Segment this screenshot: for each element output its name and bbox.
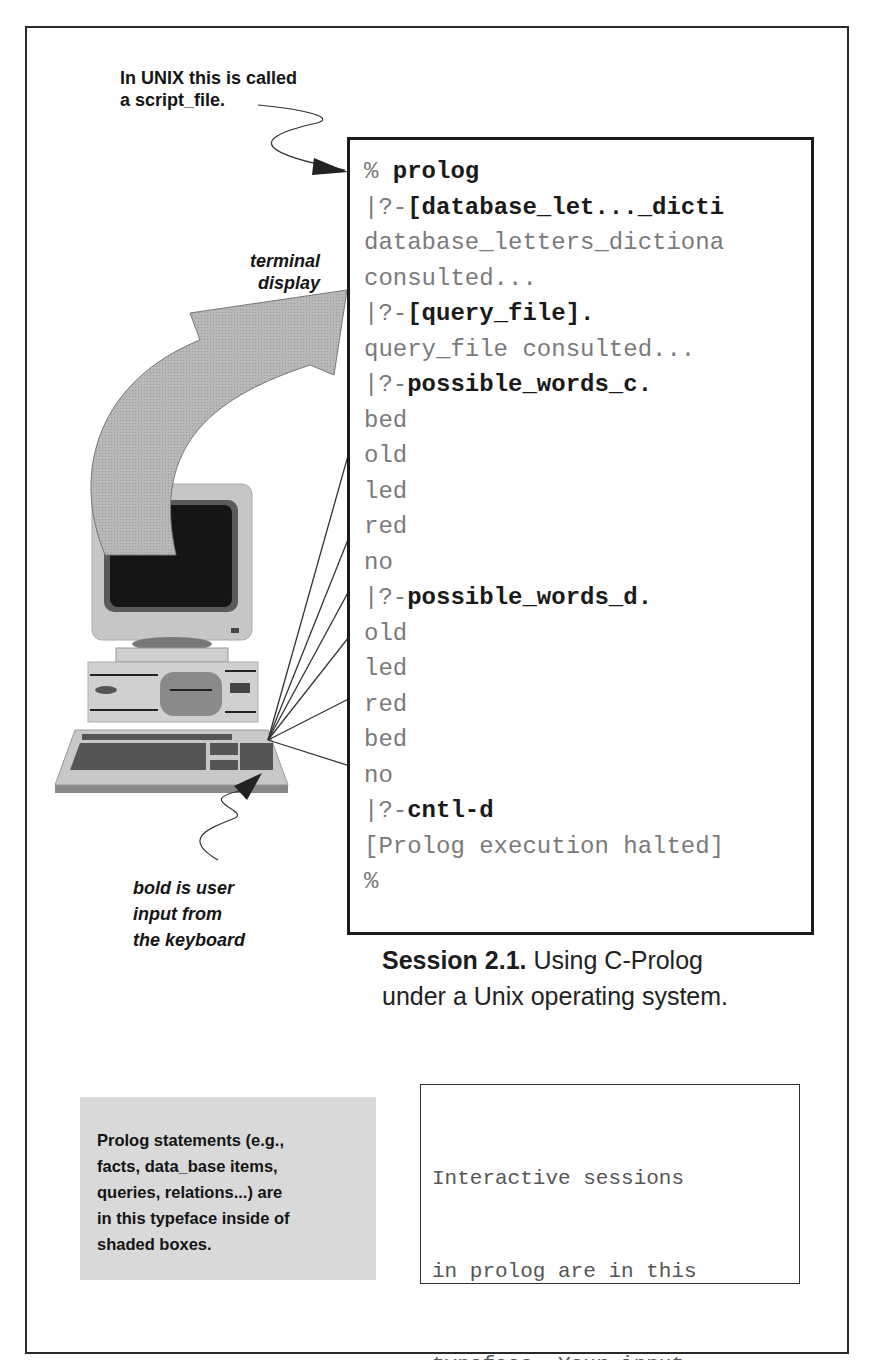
- terminal-line: red: [364, 509, 724, 545]
- callout-bold-input: bold is user input from the keyboard: [133, 875, 245, 953]
- callout-line: bold is user: [133, 875, 245, 901]
- terminal-line: old: [364, 438, 724, 474]
- terminal-line: [Prolog execution halted]: [364, 829, 724, 865]
- response-text: bed: [364, 407, 407, 434]
- callout-terminal-display: terminal display: [250, 250, 320, 294]
- prompt-text: |?-: [364, 300, 407, 327]
- callout-script-file: In UNIX this is called a script_file.: [120, 67, 297, 111]
- caption-label: Session 2.1.: [382, 946, 527, 974]
- user-input-text: [query_file].: [407, 300, 594, 327]
- squiggle-arrow-icon: [258, 105, 345, 170]
- prompt-text: |?-: [364, 797, 407, 824]
- note-line: facts, data_base items,: [97, 1153, 362, 1179]
- terminal-line: |?-[database_let..._dicti: [364, 190, 724, 226]
- response-text: %: [364, 868, 378, 895]
- terminal-line: bed: [364, 722, 724, 758]
- response-text: bed: [364, 726, 407, 753]
- prompt-text: |?-: [364, 194, 407, 221]
- terminal-line: bed: [364, 403, 724, 439]
- response-text: led: [364, 478, 407, 505]
- response-text: no: [364, 762, 393, 789]
- response-text: query_file consulted...: [364, 336, 695, 363]
- terminal-display: % prolog|?-[database_let..._dictidatabas…: [347, 137, 814, 935]
- note-line: typeface. Your input: [432, 1349, 799, 1360]
- note-line: Prolog statements (e.g.,: [97, 1127, 362, 1153]
- note-line: shaded boxes.: [97, 1231, 362, 1257]
- terminal-lines: % prolog|?-[database_let..._dictidatabas…: [364, 154, 724, 900]
- caption-text: under a Unix operating system.: [382, 978, 728, 1014]
- response-text: red: [364, 691, 407, 718]
- note-line: Interactive sessions: [432, 1163, 799, 1194]
- prompt-text: %: [364, 158, 393, 185]
- response-text: no: [364, 549, 393, 576]
- terminal-line: query_file consulted...: [364, 332, 724, 368]
- terminal-line: %: [364, 864, 724, 900]
- terminal-line: led: [364, 474, 724, 510]
- terminal-line: consulted...: [364, 261, 724, 297]
- prompt-text: |?-: [364, 371, 407, 398]
- terminal-line: led: [364, 651, 724, 687]
- user-input-text: [database_let..._dicti: [407, 194, 724, 221]
- terminal-line: |?-cntl-d: [364, 793, 724, 829]
- response-text: red: [364, 513, 407, 540]
- terminal-line: no: [364, 758, 724, 794]
- prompt-text: |?-: [364, 584, 407, 611]
- terminal-line: |?-[query_file].: [364, 296, 724, 332]
- callout-line: the keyboard: [133, 927, 245, 953]
- response-text: old: [364, 442, 407, 469]
- terminal-line: red: [364, 687, 724, 723]
- caption-text: Using C-Prolog: [527, 946, 703, 974]
- terminal-line: % prolog: [364, 154, 724, 190]
- terminal-line: |?-possible_words_c.: [364, 367, 724, 403]
- note-line: queries, relations...) are: [97, 1179, 362, 1205]
- callout-line: input from: [133, 901, 245, 927]
- terminal-line: database_letters_dictiona: [364, 225, 724, 261]
- shaded-note-box: Prolog statements (e.g., facts, data_bas…: [80, 1097, 376, 1280]
- response-text: old: [364, 620, 407, 647]
- user-input-text: possible_words_d.: [407, 584, 652, 611]
- callout-line: display: [250, 272, 320, 294]
- terminal-line: |?-possible_words_d.: [364, 580, 724, 616]
- terminal-line: no: [364, 545, 724, 581]
- callout-line: terminal: [250, 250, 320, 272]
- response-text: database_letters_dictiona: [364, 229, 724, 256]
- boxed-note: Interactive sessions in prolog are in th…: [420, 1084, 800, 1284]
- note-line: in this typeface inside of: [97, 1205, 362, 1231]
- terminal-line: old: [364, 616, 724, 652]
- user-input-text: possible_words_c.: [407, 371, 652, 398]
- figure-caption: Session 2.1. Using C-Prolog under a Unix…: [382, 942, 728, 1014]
- callout-line: In UNIX this is called: [120, 67, 297, 89]
- note-line: in prolog are in this: [432, 1256, 799, 1287]
- response-text: consulted...: [364, 265, 537, 292]
- response-text: [Prolog execution halted]: [364, 833, 724, 860]
- callout-line: a script_file.: [120, 89, 297, 111]
- user-input-text: prolog: [393, 158, 479, 185]
- user-input-text: cntl-d: [407, 797, 493, 824]
- response-text: led: [364, 655, 407, 682]
